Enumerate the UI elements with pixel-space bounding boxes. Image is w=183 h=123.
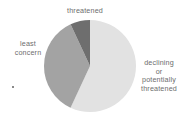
pie-label-threatened: threatened (54, 7, 116, 16)
pie-label-least-concern: least concern (4, 40, 52, 57)
pie-slices (44, 20, 136, 112)
pie-chart-figure: threatened least concern declining or po… (0, 0, 183, 123)
pie-label-declining-or-potentially-threatened: declining or potentially threatened (135, 59, 183, 93)
scan-speck-artifact (12, 86, 14, 88)
